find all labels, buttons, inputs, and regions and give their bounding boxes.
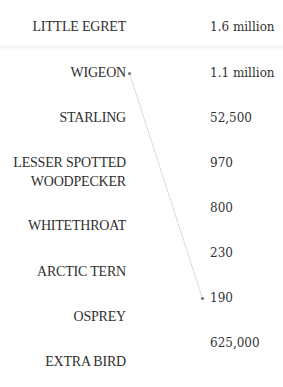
bird-label-arctic-tern[interactable]: ARCTIC TERN (37, 262, 126, 281)
bird-label-little-egret[interactable]: LITTLE EGRET (32, 17, 126, 36)
bird-label-extra-bird[interactable]: EXTRA BIRD (45, 352, 126, 371)
dotted-connector (130, 74, 203, 299)
bird-value-arctic-tern[interactable]: 230 (210, 245, 233, 261)
connector-end-dot-icon[interactable] (201, 297, 204, 300)
bird-value-extra-bird[interactable]: 625,000 (210, 335, 260, 351)
bird-value-whitethroat[interactable]: 800 (210, 200, 233, 216)
bird-value-little-egret[interactable]: 1.6 million (210, 19, 275, 35)
bird-value-starling[interactable]: 52,500 (210, 110, 252, 126)
bird-label-lesser-spotted-line2[interactable]: WOODPECKER (31, 172, 126, 191)
bird-value-wigeon[interactable]: 1.1 million (210, 65, 275, 81)
connector-line (0, 0, 283, 387)
row-separator (0, 44, 283, 50)
bird-label-wigeon[interactable]: WIGEON (70, 63, 126, 82)
bird-label-starling[interactable]: STARLING (60, 108, 127, 127)
bird-value-osprey[interactable]: 190 (210, 290, 233, 306)
bird-label-osprey[interactable]: OSPREY (74, 307, 126, 326)
bird-value-lesser-spotted-woodpecker[interactable]: 970 (210, 155, 233, 171)
connector-start-dot-icon[interactable] (128, 72, 131, 75)
bird-label-lesser-spotted-line1[interactable]: LESSER SPOTTED (13, 153, 126, 172)
bird-label-whitethroat[interactable]: WHITETHROAT (28, 216, 126, 235)
